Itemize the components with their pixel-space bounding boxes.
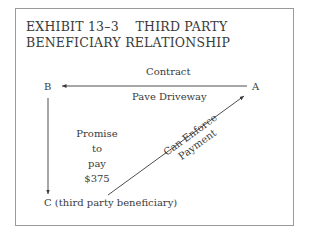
- promise-line-1: Promise: [70, 126, 124, 141]
- label-promise-to-pay: Promise to pay $375: [70, 126, 124, 186]
- promise-line-3: pay: [70, 156, 124, 171]
- promise-line-4: $375: [70, 171, 124, 186]
- node-b: B: [44, 81, 51, 93]
- promise-line-2: to: [70, 141, 124, 156]
- node-c: C (third party beneficiary): [44, 197, 177, 209]
- node-a: A: [252, 81, 259, 93]
- label-contract: Contract: [146, 66, 191, 78]
- label-pave-driveway: Pave Driveway: [132, 91, 207, 103]
